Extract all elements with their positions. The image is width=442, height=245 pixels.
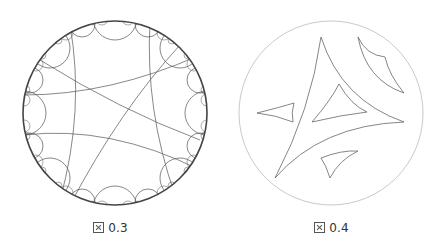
inner-triangle — [312, 84, 367, 122]
left-triangle — [257, 103, 294, 122]
top-right-region — [358, 37, 404, 93]
hyperbolic-tessellation-diagram — [0, 0, 221, 245]
figure-0-3: 0.3 — [0, 0, 221, 245]
figure-mark-icon — [93, 222, 104, 233]
disk-boundary — [239, 21, 423, 205]
figure-caption: 0.3 — [0, 221, 221, 235]
hyperbolic-triangles-diagram — [221, 0, 442, 245]
figure-mark-icon — [314, 222, 325, 233]
large-triangle — [275, 37, 404, 178]
figure-caption: 0.4 — [221, 221, 442, 235]
bottom-triangle — [321, 151, 358, 178]
disk-boundary — [23, 21, 207, 205]
figure-0-4: 0.4 — [221, 0, 442, 245]
